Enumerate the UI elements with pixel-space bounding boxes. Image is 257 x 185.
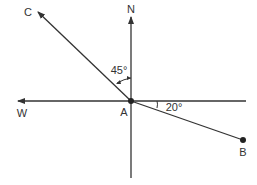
bearing-diagram: N W C A B 45° 20° xyxy=(0,0,257,185)
label-west: W xyxy=(17,107,28,119)
point-b xyxy=(240,137,246,143)
label-a: A xyxy=(120,106,128,118)
angle-20-arc xyxy=(157,101,158,108)
line-ab xyxy=(131,101,243,140)
angle-45-arrowhead-left xyxy=(116,80,121,84)
label-north: N xyxy=(127,3,135,15)
label-b: B xyxy=(239,146,246,158)
label-angle-45: 45° xyxy=(111,64,128,76)
label-angle-20: 20° xyxy=(166,101,183,113)
point-a xyxy=(128,98,134,104)
line-ac xyxy=(38,12,131,101)
label-c: C xyxy=(24,6,32,18)
